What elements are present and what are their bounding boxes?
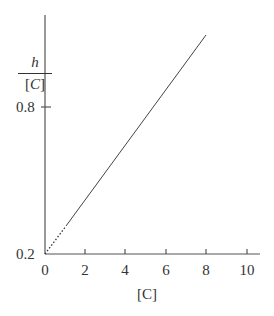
x-tick-label: 10 [240,262,255,279]
x-tick-label: 0 [41,262,49,279]
y-tick-label-low: 0.2 [16,247,35,262]
x-ticks [85,249,247,254]
x-tick-label: 6 [162,262,170,279]
y-label-numerator: h [18,54,52,74]
extrapolated-line [45,226,66,254]
x-tick-label: 8 [202,262,210,279]
x-tick-label: 4 [121,262,129,279]
data-line [66,35,206,226]
x-tick-label: 2 [81,262,89,279]
x-axis-label: [C] [137,287,157,302]
y-label-denominator: [C] [18,74,52,93]
y-tick-label-high: 0.8 [16,100,35,115]
y-axis-label: h [C] [18,54,52,93]
